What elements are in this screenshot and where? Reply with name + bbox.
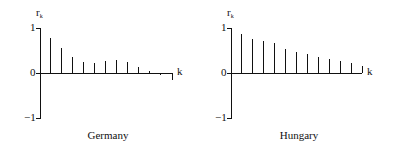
- acf-bar: [241, 34, 242, 73]
- ytick-neg1-label: −1: [24, 111, 36, 123]
- y-axis-label: rk: [36, 6, 43, 19]
- acf-bar: [61, 48, 62, 73]
- ytick-top: [227, 28, 232, 29]
- ytick-bottom: [227, 118, 232, 119]
- hungary-panel: rk10−1kHungary: [194, 0, 384, 150]
- acf-bar: [138, 67, 139, 73]
- panel-title: Germany: [48, 129, 168, 141]
- ytick-0-label: 0: [221, 66, 227, 78]
- x-axis-label: k: [177, 65, 183, 77]
- y-axis-label: rk: [227, 6, 234, 19]
- x-axis: [227, 73, 362, 74]
- ytick-bottom: [36, 118, 41, 119]
- acf-bar: [252, 39, 253, 73]
- ytick-1-label: 1: [221, 21, 227, 33]
- acf-bar: [116, 60, 117, 73]
- acf-bar: [285, 49, 286, 73]
- acf-bar: [149, 71, 150, 73]
- acf-bar: [72, 57, 73, 73]
- acf-bar: [318, 57, 319, 73]
- acf-bar: [296, 52, 297, 73]
- acf-bar: [362, 66, 363, 73]
- acf-bar: [83, 62, 84, 73]
- acf-bar: [160, 73, 161, 75]
- acf-bar: [351, 63, 352, 73]
- x-axis: [36, 73, 172, 74]
- acf-bar: [105, 61, 106, 73]
- acf-bar: [274, 43, 275, 73]
- acf-bar: [94, 63, 95, 73]
- acf-bar: [307, 54, 308, 73]
- panel-title: Hungary: [239, 129, 359, 141]
- germany-panel: rk10−1kGermany: [0, 0, 190, 150]
- acf-bar: [263, 41, 264, 73]
- ytick-top: [36, 28, 41, 29]
- ytick-0-label: 0: [30, 66, 36, 78]
- x-axis-label: k: [367, 65, 373, 77]
- ytick-neg1-label: −1: [215, 111, 227, 123]
- x-axis-end-tick: [172, 73, 173, 80]
- ytick-1-label: 1: [30, 21, 36, 33]
- acf-bar: [329, 59, 330, 73]
- acf-bar: [340, 61, 341, 73]
- acf-bar: [127, 62, 128, 73]
- acf-bar: [50, 38, 51, 73]
